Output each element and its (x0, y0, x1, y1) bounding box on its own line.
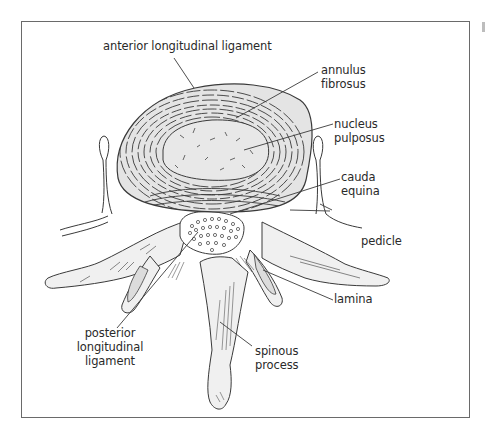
spinous-process (200, 257, 248, 409)
label-posterior-longitudinal-ligament-line1: posterior (70, 326, 150, 340)
label-lamina: lamina (334, 292, 372, 306)
label-anterior-longitudinal-ligament: anterior longitudinal ligament (103, 39, 272, 53)
label-posterior-longitudinal-ligament-line2: longitudinal (70, 340, 150, 354)
label-annulus-fibrosus-line2: fibrosus (321, 77, 366, 91)
label-annulus-fibrosus-line1: annulus (321, 63, 366, 77)
label-cauda-equina-line2: equina (341, 184, 380, 198)
right-transverse-process (262, 222, 389, 286)
label-nucleus-pulposus-line1: nucleus (334, 117, 378, 131)
label-spinous-process-line1: spinous (255, 344, 298, 358)
label-nucleus-pulposus-line2: pulposus (334, 131, 385, 145)
left-transverse-stalk (60, 136, 112, 236)
nucleus-pulposus (163, 120, 269, 180)
label-posterior-longitudinal-ligament-line3: ligament (70, 354, 150, 368)
vertebral-canal (180, 212, 244, 255)
label-cauda-equina-line1: cauda (341, 170, 376, 184)
label-pedicle: pedicle (361, 234, 402, 248)
label-spinous-process-line2: process (255, 358, 299, 372)
